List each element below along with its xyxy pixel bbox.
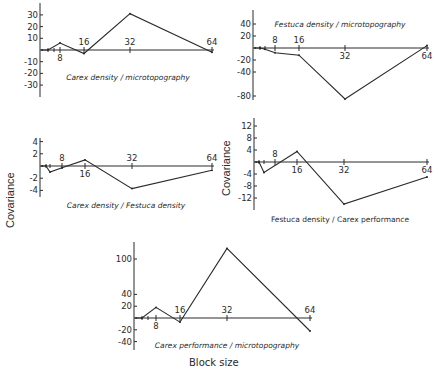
data-point (274, 52, 276, 54)
panel-title: Carex density / Festuca density (67, 201, 186, 210)
x-tick-label: 8 (59, 153, 64, 163)
data-point (155, 306, 157, 308)
data-point (259, 47, 261, 49)
y-tick-label: 20 (27, 22, 38, 32)
y-tick-label: -4 (30, 185, 38, 195)
covariance-line (42, 14, 212, 54)
y-tick-label: 4 (33, 137, 38, 147)
data-point (254, 47, 256, 49)
x-tick-label: 8 (57, 53, 62, 63)
data-point (255, 161, 257, 163)
chart-panel-4: 1284-4-8-128163264Festuca density / Care… (238, 118, 432, 224)
y-tick-label: -80 (237, 91, 251, 101)
data-point (426, 45, 428, 47)
data-point (226, 247, 228, 249)
x-tick-label: 64 (422, 165, 433, 175)
data-point (296, 151, 298, 153)
data-point (344, 98, 346, 100)
data-point (41, 49, 43, 51)
x-tick-label: 16 (80, 169, 91, 179)
data-point (61, 167, 63, 169)
data-point (141, 317, 143, 319)
x-tick-label: 64 (422, 51, 433, 61)
covariance-chart-figure: 302010-10-20-308163264Carex density / mi… (0, 0, 438, 378)
chart-panel-5: 1004020-20-408163264Carex performance / … (116, 242, 316, 350)
data-point (263, 172, 265, 174)
y-tick-label: -12 (238, 193, 252, 203)
y-axis-label-left: Covariance (4, 172, 16, 228)
y-tick-label: -20 (237, 55, 251, 65)
y-tick-label: 4 (247, 145, 252, 155)
x-tick-label: 16 (294, 35, 305, 45)
y-tick-label: 10 (27, 33, 38, 43)
x-tick-label: 64 (305, 305, 316, 315)
chart-panel-1: 302010-10-20-308163264Carex density / mi… (24, 3, 217, 97)
data-point (258, 161, 260, 163)
y-tick-label: 20 (121, 301, 132, 311)
data-point (83, 53, 85, 55)
data-point (309, 330, 311, 332)
covariance-line (136, 248, 310, 331)
y-tick-label: -20 (118, 325, 132, 335)
y-tick-label: 8 (247, 133, 252, 143)
x-tick-label: 64 (207, 37, 218, 47)
data-point (179, 321, 181, 323)
data-point (135, 317, 137, 319)
data-point (47, 49, 49, 51)
y-tick-label: 12 (241, 121, 252, 131)
x-tick-label: 32 (222, 305, 233, 315)
x-tick-label: 16 (79, 37, 90, 47)
y-tick-label: 2 (33, 149, 38, 159)
y-tick-label: -4 (244, 169, 252, 179)
x-tick-label: 8 (272, 35, 277, 45)
x-tick-label: 16 (175, 305, 186, 315)
y-tick-label: 30 (27, 10, 38, 20)
covariance-line (256, 152, 427, 205)
data-point (211, 169, 213, 171)
data-point (298, 54, 300, 56)
chart-panel-3: 42-2-48163264Carex density / Festuca den… (30, 137, 218, 210)
x-tick-label: 8 (272, 149, 277, 159)
x-axis-label: Block size (189, 357, 239, 368)
panel-title: Festuca density / Carex performance (271, 215, 409, 224)
data-point (343, 203, 345, 205)
data-point (426, 176, 428, 178)
data-point (41, 165, 43, 167)
panel-title: Carex density / microtopography (66, 73, 190, 82)
y-axis-label-right: Covariance (220, 140, 232, 196)
covariance-line (42, 160, 212, 189)
y-tick-label: 40 (240, 19, 251, 29)
y-tick-label: -10 (24, 57, 38, 67)
y-tick-label: -8 (244, 181, 252, 191)
y-tick-label: -20 (24, 68, 38, 78)
x-tick-label: 8 (153, 321, 158, 331)
y-tick-label: 100 (116, 254, 132, 264)
data-point (131, 188, 133, 190)
x-tick-label: 32 (339, 165, 350, 175)
y-tick-label: -40 (118, 337, 132, 347)
chart-panel-2: 4020-20-40-808163264Festuca density / mi… (237, 10, 432, 101)
y-tick-label: 40 (121, 289, 132, 299)
panel-title: Festuca density / microtopography (275, 20, 406, 29)
data-point (49, 171, 51, 173)
y-tick-label: 20 (240, 31, 251, 41)
x-tick-label: 16 (292, 165, 303, 175)
x-tick-label: 32 (127, 153, 138, 163)
x-tick-label: 64 (207, 153, 218, 163)
data-point (264, 48, 266, 50)
data-point (211, 51, 213, 53)
data-point (84, 159, 86, 161)
x-tick-label: 32 (340, 51, 351, 61)
panel-title: Carex performance / microtopography (155, 341, 300, 350)
y-tick-label: -40 (237, 67, 251, 77)
x-tick-label: 32 (125, 37, 136, 47)
y-tick-label: -2 (30, 173, 38, 183)
data-point (59, 42, 61, 44)
data-point (45, 165, 47, 167)
data-point (129, 13, 131, 15)
y-tick-label: -30 (24, 80, 38, 90)
